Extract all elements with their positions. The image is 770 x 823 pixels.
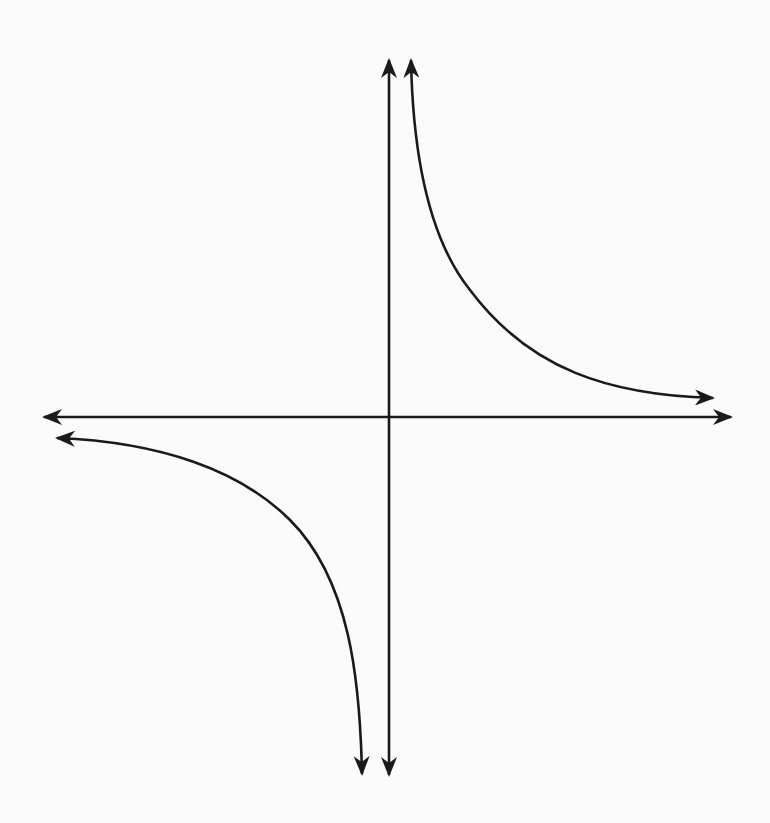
- background: [0, 0, 770, 823]
- hyperbola-diagram: [0, 0, 770, 823]
